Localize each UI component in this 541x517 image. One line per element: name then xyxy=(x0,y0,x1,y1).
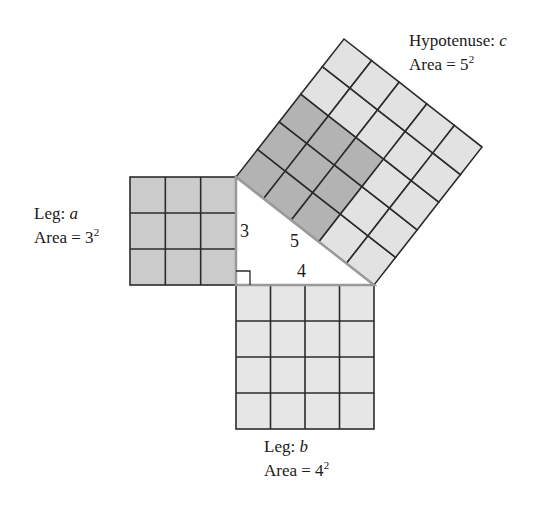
leg-b-square xyxy=(236,285,374,429)
hypotenuse-label: Hypotenuse: c Area = 52 xyxy=(409,31,507,74)
leg-a-square-fill xyxy=(130,177,236,285)
side-b-label: 4 xyxy=(297,261,306,281)
hypotenuse-label-area: Area = 52 xyxy=(409,53,474,74)
hypotenuse-label-title: Hypotenuse: c xyxy=(409,31,507,50)
leg-b-label-title: Leg: b xyxy=(264,437,308,456)
leg-b-label-area: Area = 42 xyxy=(264,459,329,480)
leg-a-label-area: Area = 32 xyxy=(34,226,99,247)
leg-a-label: Leg: a Area = 32 xyxy=(34,204,99,247)
leg-a-label-title: Leg: a xyxy=(34,204,78,223)
leg-a-square xyxy=(130,177,236,285)
pythagorean-diagram: 3 5 4 Hypotenuse: c Area = 52 Leg: a Are… xyxy=(0,0,541,517)
leg-b-label: Leg: b Area = 42 xyxy=(264,437,329,480)
side-c-label: 5 xyxy=(290,231,299,251)
side-a-label: 3 xyxy=(240,221,249,241)
